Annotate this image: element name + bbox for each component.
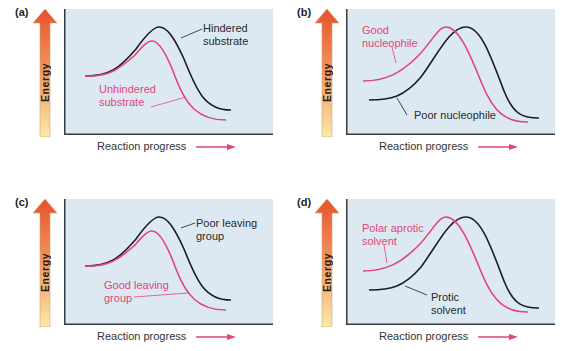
- x-axis-arrow-icon: [478, 331, 518, 343]
- x-axis-arrow-icon: [478, 141, 518, 153]
- unhindered-substrate-label: Unhinderedsubstrate: [99, 83, 156, 108]
- x-axis-label: Reaction progress: [379, 140, 468, 152]
- poor-nucleophile-label: Poor nucleophile: [414, 109, 496, 122]
- panel-c: (c) Energy Poor leavinggroup Good leavin…: [0, 190, 282, 351]
- panel-b: (b) Energy Goodnucleophile Poor nucleoph…: [282, 0, 564, 175]
- x-axis-arrow-icon: [196, 331, 236, 343]
- panel-a: (a) Energy Hinderedsubstrate Unhindereds…: [0, 0, 282, 175]
- x-axis-label: Reaction progress: [379, 330, 468, 342]
- x-axis-label: Reaction progress: [97, 140, 186, 152]
- panel-d: (d) Energy Polar aproticsolvent Proticso…: [282, 190, 564, 351]
- y-axis-label: Energy: [319, 242, 335, 302]
- panel-label: (d): [297, 196, 311, 208]
- hindered-substrate-label: Hinderedsubstrate: [203, 22, 248, 47]
- x-axis-label: Reaction progress: [97, 330, 186, 342]
- panel-label: (b): [297, 6, 311, 18]
- polar-aprotic-solvent-label: Polar aproticsolvent: [362, 222, 424, 247]
- x-axis-arrow-icon: [196, 141, 236, 153]
- y-axis-label: Energy: [37, 52, 53, 112]
- panel-label: (a): [15, 6, 28, 18]
- protic-solvent-label: Proticsolvent: [431, 291, 466, 316]
- y-axis-label: Energy: [319, 52, 335, 112]
- good-leaving-group-label: Good leavinggroup: [104, 279, 169, 304]
- panel-label: (c): [15, 196, 28, 208]
- y-axis-label: Energy: [37, 242, 53, 302]
- good-nucleophile-label: Goodnucleophile: [362, 24, 418, 49]
- poor-leaving-group-label: Poor leavinggroup: [196, 217, 257, 242]
